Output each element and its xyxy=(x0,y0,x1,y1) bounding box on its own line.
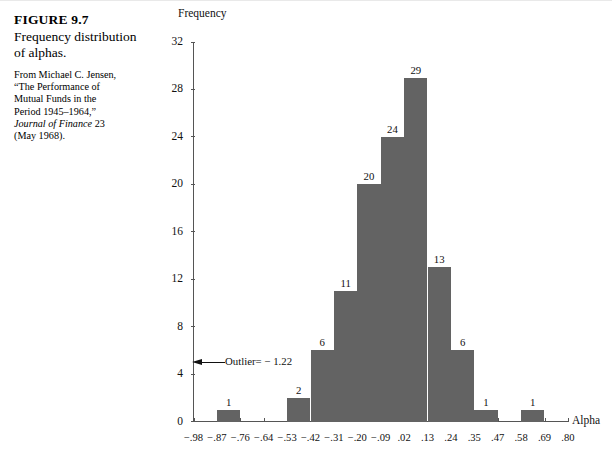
x-tick-label: .80 xyxy=(551,432,585,443)
x-tick-15 xyxy=(545,418,546,422)
histogram-bar xyxy=(474,410,497,422)
outlier-leader-line xyxy=(202,362,225,363)
histogram-bar xyxy=(451,350,474,421)
bar-value-label: 1 xyxy=(516,397,550,408)
bar-value-label: 1 xyxy=(469,397,503,408)
y-tick-label: 32 xyxy=(157,36,183,48)
histogram-bar xyxy=(357,184,380,421)
histogram-bar xyxy=(311,350,334,421)
y-tick-16 xyxy=(191,231,195,232)
y-tick-label: 28 xyxy=(157,83,183,95)
y-tick-label: 0 xyxy=(157,416,183,428)
y-tick-label: 4 xyxy=(157,368,183,380)
y-tick-label: 16 xyxy=(157,226,183,238)
histogram-bar xyxy=(287,398,310,422)
y-tick-label: 12 xyxy=(157,273,183,285)
x-tick-13 xyxy=(498,418,499,422)
x-axis-title: Alpha xyxy=(572,414,600,426)
bar-value-label: 1 xyxy=(212,397,246,408)
x-tick-0 xyxy=(194,418,195,422)
x-tick-3 xyxy=(264,418,265,422)
y-tick-12 xyxy=(191,279,195,280)
bar-value-label: 29 xyxy=(399,65,433,76)
y-tick-24 xyxy=(191,136,195,137)
y-tick-4 xyxy=(191,374,195,375)
histogram-bar xyxy=(404,78,427,422)
y-axis-title: Frequency xyxy=(178,7,227,19)
histogram-bar xyxy=(521,410,544,422)
y-tick-label: 24 xyxy=(157,131,183,143)
figure-page: FIGURE 9.7 Frequency distribution of alp… xyxy=(0,0,612,462)
y-tick-8 xyxy=(191,326,195,327)
histogram-bar xyxy=(334,291,357,421)
bar-value-label: 6 xyxy=(446,337,480,348)
histogram-plot: Frequency Alpha 048121620242832 −.98−.87… xyxy=(0,0,612,462)
y-tick-20 xyxy=(191,184,195,185)
bar-value-label: 13 xyxy=(422,254,456,265)
y-tick-28 xyxy=(191,89,195,90)
outlier-arrow-icon xyxy=(192,359,202,365)
x-tick-16 xyxy=(568,418,569,422)
y-tick-label: 20 xyxy=(157,178,183,190)
outlier-label: Outlier= − 1.22 xyxy=(225,355,292,367)
y-tick-label: 8 xyxy=(157,321,183,333)
histogram-bar xyxy=(217,410,240,422)
histogram-bar xyxy=(381,137,404,422)
y-tick-32 xyxy=(191,42,195,43)
